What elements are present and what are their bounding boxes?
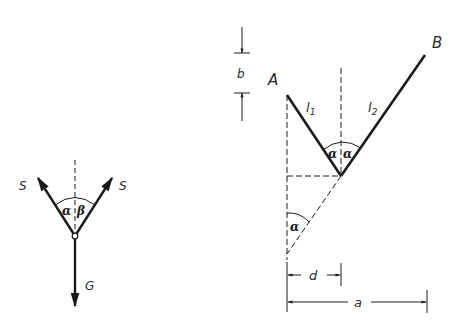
point-a-label: A xyxy=(267,71,278,89)
segment-l2-label: l2 xyxy=(368,100,378,117)
joint-node-icon xyxy=(72,233,78,239)
angle-beta-label: β xyxy=(76,204,85,218)
weight-label: G xyxy=(85,279,94,293)
dim-b-label: b xyxy=(237,67,245,81)
geometry-diagram: b A B α α α l1 l2 d a xyxy=(234,27,442,313)
force-left-label: S xyxy=(19,179,27,193)
diagonal-dashed xyxy=(287,176,341,254)
force-diagram: S S G α β xyxy=(19,160,127,306)
angle-alpha-lower-label: α xyxy=(290,220,299,234)
point-b-label: B xyxy=(432,34,442,52)
dim-d-label: d xyxy=(309,268,318,283)
segment-l1-label: l1 xyxy=(306,100,315,117)
angle-alpha-left-label: α xyxy=(328,147,337,161)
force-right-label: S xyxy=(119,179,127,193)
segment-l2 xyxy=(341,55,425,176)
dim-a-label: a xyxy=(354,295,362,310)
angle-alpha-label: α xyxy=(62,204,71,218)
angle-alpha-right-label: α xyxy=(343,147,352,161)
diagram-canvas: S S G α β b A B α α α l1 l xyxy=(0,0,461,331)
